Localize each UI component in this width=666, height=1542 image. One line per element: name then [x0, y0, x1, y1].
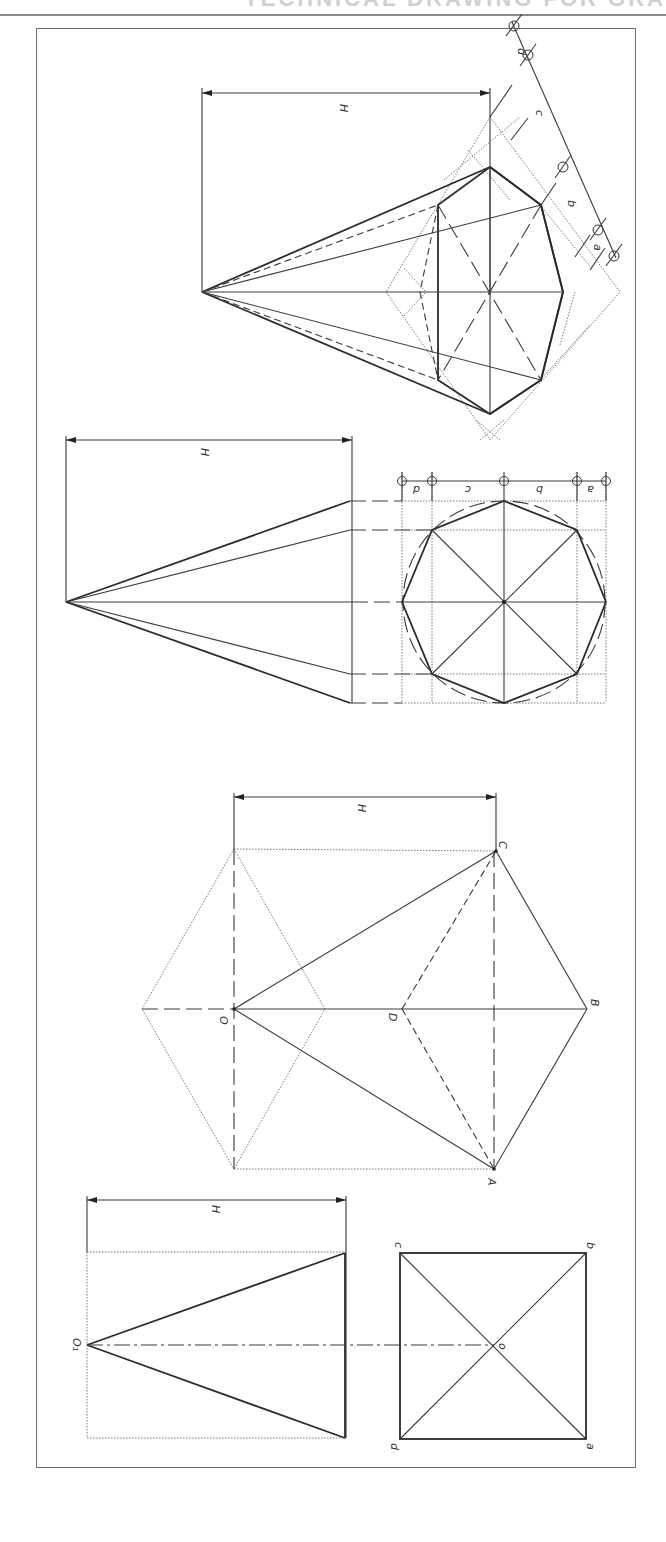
vertex-label-o: o: [496, 1343, 509, 1350]
dimension-label-h: H: [355, 804, 368, 812]
division-label-c: c: [533, 110, 546, 116]
arrow-right-icon: [342, 437, 352, 443]
vertex-label-d: D: [386, 1013, 399, 1021]
division-label-a: a: [591, 244, 604, 251]
division-label-b: b: [565, 200, 578, 207]
arrow-left-icon: [202, 90, 212, 96]
division-label-d: d: [515, 48, 528, 56]
division-label-a: a: [587, 483, 594, 496]
division-label-c: c: [465, 483, 471, 496]
dimension-label-h: H: [337, 104, 350, 112]
dimension-label-h: H: [198, 448, 211, 456]
dimension-label-h: H: [209, 1205, 222, 1213]
figure-hex-pyramid-oblique: H: [202, 14, 622, 440]
drawing-sheet: H: [0, 0, 666, 1542]
figure-square-pyramid: H O₁ c b d a o: [70, 1196, 597, 1451]
vertex-label-a: a: [584, 1443, 597, 1450]
arrow-left-icon: [87, 1197, 97, 1203]
arrow-right-icon: [480, 90, 490, 96]
figure-hex-pyramid-development: H O D B C A: [142, 793, 601, 1186]
arrow-left-icon: [66, 437, 76, 443]
vertex-label-b: b: [584, 1242, 597, 1249]
figure-octagonal-pyramid: H: [66, 436, 611, 703]
vertex-label-c: c: [392, 1242, 405, 1248]
arrow-right-icon: [336, 1197, 346, 1203]
vertex-label-d: d: [388, 1443, 401, 1451]
vertex-label-a: A: [485, 1177, 498, 1186]
arrow-right-icon: [486, 794, 496, 800]
arrow-left-icon: [234, 794, 244, 800]
vertex-label-b: B: [588, 999, 601, 1007]
division-label-b: b: [536, 483, 543, 496]
vertex-label-c: C: [496, 841, 509, 849]
division-label-d: d: [412, 483, 420, 496]
apex-label-o1: O₁: [70, 1338, 83, 1351]
vertex-label-o: O: [217, 1016, 230, 1025]
